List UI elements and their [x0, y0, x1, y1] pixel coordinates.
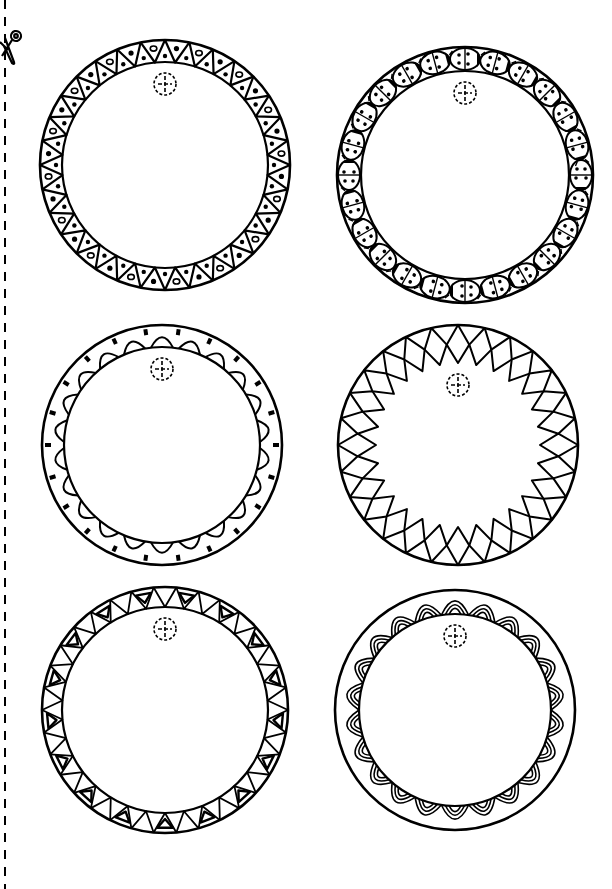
- punch-hole-icon: [447, 374, 469, 396]
- scissors-icon: [0, 28, 26, 68]
- punch-hole-icon: [151, 358, 173, 380]
- gift-tag-nested-triangles: Nested triangle border: [34, 579, 296, 841]
- gift-tag-triangles-with-dots: Triangle border with dots and rings: [32, 32, 298, 298]
- cut-line: [4, 0, 6, 889]
- punch-hole-icon: [154, 73, 176, 95]
- gift-tag-double-arches: Double arch border: [327, 582, 583, 838]
- punch-hole-icon: [454, 82, 476, 104]
- gift-tag-ladybugs: Ladybug border: [329, 39, 601, 311]
- punch-hole-icon: [444, 625, 466, 647]
- punch-hole-icon: [154, 618, 176, 640]
- gift-tag-zigzag-squares: Zigzag square border: [330, 317, 586, 573]
- gift-tag-scallops: Scalloped border: [34, 317, 290, 573]
